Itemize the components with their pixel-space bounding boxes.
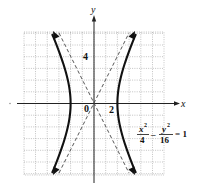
- y-axis-label: y: [90, 4, 96, 15]
- y-tick-label: 4: [83, 51, 88, 62]
- eq-x-exp: 2: [144, 122, 147, 128]
- eq-x-den: 4: [140, 135, 145, 145]
- arrow-down-right-icon: [129, 167, 136, 176]
- equation: x 2 4 – y 2 16 = 1: [137, 122, 187, 145]
- hyperbola-graph: y x 0 2 4 x 2 4 – y 2 16 = 1: [0, 0, 201, 190]
- eq-minus: –: [150, 129, 156, 139]
- arrow-up-right-icon: [129, 31, 136, 40]
- eq-y-exp: 2: [167, 122, 170, 128]
- axes: [9, 15, 180, 183]
- x-axis-arrow-icon: [174, 101, 180, 105]
- y-axis-arrow-icon: [92, 15, 96, 22]
- origin-label: 0: [84, 103, 89, 114]
- eq-rhs: = 1: [175, 129, 187, 139]
- eq-y-den: 16: [160, 135, 170, 145]
- x-tick-label: 2: [109, 104, 114, 115]
- stray-dot: [9, 103, 10, 104]
- x-axis-label: x: [180, 98, 186, 109]
